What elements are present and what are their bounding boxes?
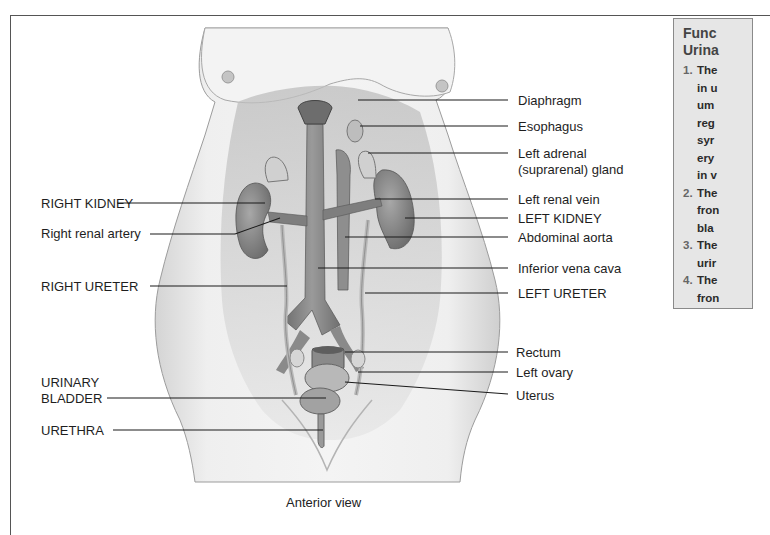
panel-item-1: 1.The [683,62,752,80]
label-left-adrenal-line1: Left adrenal [518,146,587,161]
panel-item-3-line: urir [683,255,752,273]
panel-item-2-line: fron [683,202,752,220]
panel-item-4: 4.The [683,272,752,290]
label-inferior-vena-cava: Inferior vena cava [518,261,621,276]
panel-item-2: 2.The [683,185,752,203]
label-urethra: URETHRA [41,423,104,438]
label-right-ureter: RIGHT URETER [41,279,138,294]
label-uterus: Uterus [516,388,554,403]
label-right-kidney: RIGHT KIDNEY [41,196,133,211]
label-diaphragm: Diaphragm [518,93,582,108]
panel-item-1-line: syr [683,132,752,150]
panel-item-1-line: reg [683,115,752,133]
label-urinary-bladder-line1: URINARY [41,375,99,390]
label-left-kidney: LEFT KIDNEY [518,211,602,226]
uterus-shape [305,364,349,392]
panel-item-1-line: ery [683,150,752,168]
panel-item-2-line: bla [683,220,752,238]
panel-title-line1: Func [683,25,752,42]
torso-outline [155,28,500,482]
panel-item-1-line: um [683,97,752,115]
left-nipple-icon [222,71,234,83]
panel-item-1-line: in v [683,167,752,185]
esophagus-shape [347,120,363,142]
label-rectum: Rectum [516,345,561,360]
label-abdominal-aorta: Abdominal aorta [518,230,613,245]
panel-list: 1.The in u um reg syr ery in v 2.The fro… [683,62,752,307]
urethra-shape [318,414,324,448]
label-left-renal-vein: Left renal vein [518,192,600,207]
panel-item-3: 3.The [683,237,752,255]
label-left-ureter: LEFT URETER [518,286,607,301]
panel-item-1-line: in u [683,80,752,98]
label-esophagus: Esophagus [518,119,583,134]
figure-caption: Anterior view [286,495,361,510]
panel-item-4-line: fron [683,290,752,308]
panel-title-line2: Urina [683,42,752,59]
right-nipple-icon [436,80,448,92]
label-urinary-bladder-line2: BLADDER [41,391,102,406]
bladder-shape [300,388,340,414]
functions-panel: Func Urina 1.The in u um reg syr ery in … [673,18,753,309]
left-ovary-shape [351,350,365,368]
label-right-renal-artery: Right renal artery [41,226,141,241]
label-left-ovary: Left ovary [516,365,573,380]
label-left-adrenal-line2: (suprarenal) gland [518,162,624,177]
